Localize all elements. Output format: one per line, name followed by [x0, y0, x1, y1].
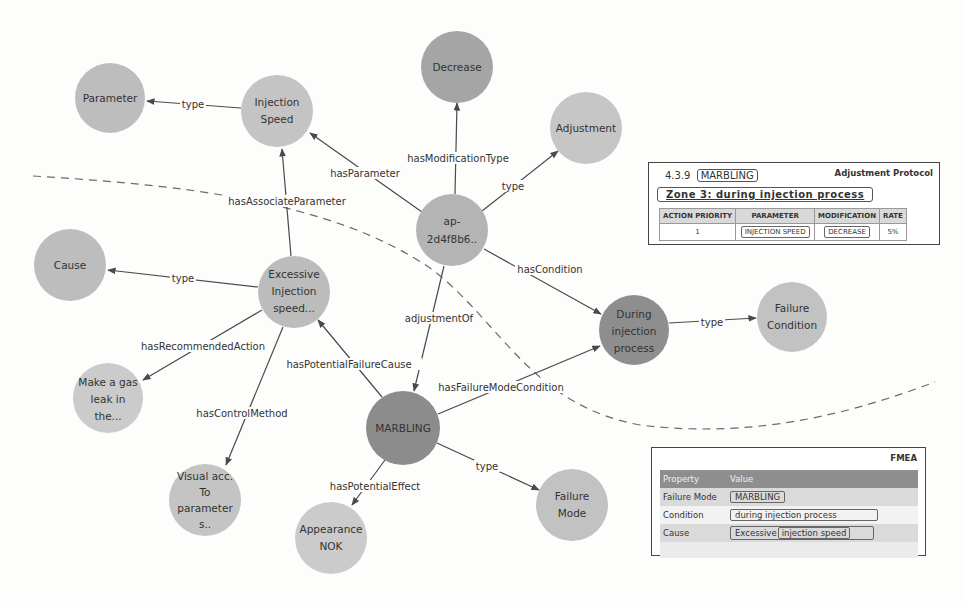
node-decrease[interactable]: Decrease: [421, 31, 493, 103]
svg-text:Parameter: Parameter: [83, 92, 138, 104]
node-ap[interactable]: ap- 2d4f8b6..: [416, 194, 488, 266]
modification-value: DECREASE: [824, 226, 870, 238]
edge-label: hasPotentialEffect: [330, 481, 420, 492]
svg-text:Visual acc.: Visual acc.: [177, 470, 233, 482]
panel-title: Adjustment Protocol: [835, 168, 933, 178]
edge-label: hasAssociateParameter: [228, 196, 346, 207]
fmea-row: Condition during injection process: [660, 506, 918, 524]
svg-text:Condition: Condition: [767, 319, 817, 331]
edge-ap-marbling: [414, 266, 444, 391]
property-header: Property: [660, 474, 728, 484]
edge-label: type: [182, 99, 204, 110]
cause-inner-value: injection speed: [778, 527, 851, 539]
column-header: MODIFICATION: [815, 209, 880, 224]
svg-text:To: To: [198, 486, 210, 498]
edge-label: type: [476, 461, 498, 472]
edge-label: type: [502, 181, 524, 192]
node-failure-condition[interactable]: Failure Condition: [757, 282, 827, 352]
property-label: Cause: [660, 528, 728, 538]
svg-text:Adjustment: Adjustment: [556, 122, 616, 134]
svg-text:leak in: leak in: [91, 393, 126, 405]
svg-text:speed...: speed...: [273, 302, 315, 314]
parameter-cell: INJECTION SPEED: [736, 224, 815, 241]
cause-prefix: Excessive: [735, 528, 777, 538]
table-row: 1 INJECTION SPEED DECREASE 5%: [660, 224, 907, 241]
svg-text:process: process: [614, 342, 654, 354]
svg-text:injection: injection: [612, 325, 657, 337]
cause-value: Excessiveinjection speed: [730, 526, 874, 540]
svg-text:Failure: Failure: [775, 302, 810, 314]
svg-text:Make a gas: Make a gas: [78, 376, 137, 388]
edge-label: hasCondition: [517, 264, 582, 275]
modification-cell: DECREASE: [815, 224, 880, 241]
column-header: RATE: [880, 209, 907, 224]
node-parameter[interactable]: Parameter: [75, 63, 145, 133]
property-label: Condition: [660, 510, 728, 520]
svg-text:parameter: parameter: [177, 502, 233, 514]
priority-cell: 1: [660, 224, 736, 241]
node-visual-acc[interactable]: Visual acc. To parameter s..: [169, 464, 241, 536]
condition-value: during injection process: [730, 509, 878, 521]
svg-text:MARBLING: MARBLING: [375, 422, 431, 434]
failure-mode-value: MARBLING: [730, 491, 785, 503]
column-header: ACTION PRIORITY: [660, 209, 736, 224]
fmea-row: Failure Mode MARBLING: [660, 488, 918, 506]
svg-text:Failure: Failure: [555, 490, 590, 502]
fmea-table: Property Value Failure Mode MARBLING Con…: [660, 470, 918, 558]
property-label: Failure Mode: [660, 492, 728, 502]
node-failure-mode[interactable]: Failure Mode: [536, 469, 608, 541]
edge-label: hasRecommendedAction: [141, 341, 265, 352]
rate-cell: 5%: [880, 224, 907, 241]
node-injection-speed[interactable]: Injection Speed: [241, 75, 313, 147]
panel-title: FMEA: [890, 453, 917, 463]
edge-label: hasFailureModeCondition: [438, 382, 564, 393]
svg-text:2d4f8b6..: 2d4f8b6..: [427, 233, 477, 245]
edge-ap-decrease: [455, 103, 457, 194]
zone-label: Zone 3: during injection process: [657, 187, 873, 202]
section-heading: 4.3.9 MARBLING: [665, 169, 758, 182]
node-make-gas-leak[interactable]: Make a gas leak in the...: [73, 363, 143, 433]
svg-text:s..: s..: [199, 518, 211, 530]
section-name: MARBLING: [697, 169, 758, 182]
svg-text:Appearance: Appearance: [299, 523, 362, 535]
node-cause[interactable]: Cause: [34, 229, 106, 301]
edge-label: hasModificationType: [407, 153, 509, 164]
svg-text:Mode: Mode: [558, 507, 587, 519]
column-header: PARAMETER: [736, 209, 815, 224]
node-excessive-injection-speed[interactable]: Excessive Injection speed...: [258, 256, 330, 328]
fmea-header-row: Property Value: [660, 470, 918, 488]
section-number: 4.3.9: [665, 170, 690, 181]
node-adjustment[interactable]: Adjustment: [550, 92, 622, 164]
edge-label: type: [172, 273, 194, 284]
svg-text:the...: the...: [94, 410, 121, 422]
value-header: Value: [728, 474, 918, 484]
fmea-row: Cause Excessiveinjection speed: [660, 524, 918, 542]
svg-text:Injection: Injection: [271, 285, 316, 297]
fmea-empty-row: [660, 542, 918, 558]
svg-text:Injection: Injection: [254, 96, 299, 108]
adjustment-protocol-panel: 4.3.9 MARBLING Adjustment Protocol Zone …: [648, 162, 940, 245]
edge-label: type: [701, 317, 723, 328]
svg-text:Excessive: Excessive: [268, 268, 319, 280]
node-appearance-nok[interactable]: Appearance NOK: [295, 502, 367, 574]
node-during-injection-process[interactable]: During injection process: [599, 295, 669, 365]
svg-text:During: During: [616, 308, 651, 320]
adjustment-table: ACTION PRIORITY PARAMETER MODIFICATION R…: [659, 208, 907, 241]
parameter-value: INJECTION SPEED: [741, 226, 810, 238]
edge-label: hasControlMethod: [196, 408, 287, 419]
svg-text:Decrease: Decrease: [432, 61, 481, 73]
node-marbling[interactable]: MARBLING: [366, 391, 440, 465]
edge-ap-during: [484, 249, 601, 314]
edge-label: hasPotentialFailureCause: [286, 359, 411, 370]
edge-label: adjustmentOf: [405, 313, 474, 324]
fmea-panel: FMEA Property Value Failure Mode MARBLIN…: [651, 447, 926, 556]
edge-label: hasParameter: [330, 168, 401, 179]
svg-text:ap-: ap-: [444, 215, 461, 227]
svg-text:Speed: Speed: [261, 113, 294, 125]
svg-text:Cause: Cause: [54, 259, 86, 271]
svg-text:NOK: NOK: [319, 540, 343, 552]
edge-marbling-during: [438, 346, 600, 414]
